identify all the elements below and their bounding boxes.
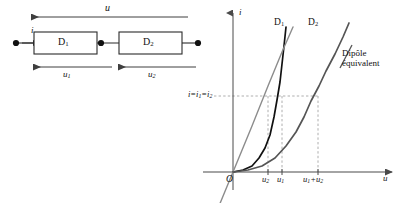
origin-label: O — [226, 175, 233, 185]
curve-d1-sub: 1 — [281, 20, 284, 27]
branch-voltage-label-u2: u2 — [148, 70, 156, 79]
curve-label-d1: D1 — [274, 18, 284, 28]
x-tick-label-u-sum: u1+u2 — [303, 175, 323, 185]
curve-equivalent-dipole — [233, 23, 349, 172]
curve-d2-name: D — [308, 17, 315, 27]
curve-d1 — [233, 27, 286, 172]
terminal-node-left — [13, 40, 19, 46]
annotation-equivalent-dipole: Dipôle équivalent — [342, 48, 380, 69]
terminal-node-right — [195, 40, 201, 46]
x-tick-u1-sub: 1 — [281, 178, 284, 184]
y-tick-name1: i=i — [188, 89, 198, 99]
curve-d2-sub: 2 — [315, 20, 318, 27]
component-label-d1: D1 — [58, 37, 69, 48]
x-tick-label-u1: u1 — [277, 175, 284, 185]
y-tick-label-current: i=i1=i2 — [188, 90, 212, 100]
curve-label-d2: D2 — [308, 18, 318, 28]
circuit-diagram — [13, 17, 201, 67]
figure-canvas — [0, 0, 404, 203]
x-axis-label: u — [383, 174, 388, 183]
x-tick-usum-name2: +u — [310, 174, 320, 184]
annotation-line-1: Dipôle — [342, 48, 380, 58]
x-tick-usum-sub2: 2 — [320, 178, 323, 184]
current-label: i — [31, 26, 34, 35]
x-tick-u2-sub: 2 — [266, 178, 269, 184]
total-voltage-label: u — [105, 3, 110, 13]
u2-sub: 2 — [153, 73, 156, 79]
u1-sub: 1 — [68, 73, 71, 79]
y-axis-label: i — [239, 8, 242, 17]
annotation-line-2: équivalent — [342, 58, 380, 68]
y-tick-sub2: 2 — [209, 93, 212, 99]
figure-series-dipoles: u i D1 D2 u1 u2 i u O u2 u1 u1+u2 i=i1=i… — [0, 0, 404, 203]
x-tick-label-u2: u2 — [262, 175, 269, 185]
curve-d1-name: D — [274, 17, 281, 27]
component-label-d2: D2 — [143, 37, 154, 48]
construction-lines — [214, 96, 318, 172]
branch-voltage-label-u1: u1 — [63, 70, 71, 79]
component-d1-sub: 1 — [65, 40, 68, 47]
component-d2-sub: 2 — [150, 40, 153, 47]
terminal-node-middle — [98, 40, 104, 46]
